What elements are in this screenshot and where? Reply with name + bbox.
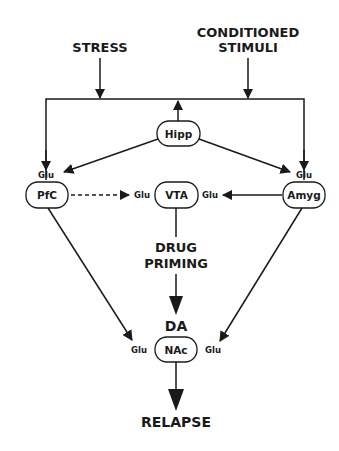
priming-label: PRIMING bbox=[144, 256, 208, 271]
vta-right-glu-label: Glu bbox=[202, 190, 218, 200]
pfc-label: PfC bbox=[37, 189, 57, 201]
hipp-to-amyg-arrow bbox=[199, 139, 290, 172]
vta-left-glu-label: Glu bbox=[134, 190, 150, 200]
priming-arrowhead-icon bbox=[169, 296, 183, 315]
stimuli-label: STIMULI bbox=[218, 40, 278, 55]
drug-label: DRUG bbox=[155, 240, 197, 255]
nac-left-glu-label: Glu bbox=[131, 345, 147, 355]
nac-right-glu-label: Glu bbox=[205, 345, 221, 355]
vta-label: VTA bbox=[165, 189, 188, 201]
relapse-arrowhead-icon bbox=[168, 389, 184, 411]
nac-label: NAc bbox=[164, 344, 187, 356]
hipp-to-pfc-arrow bbox=[64, 139, 158, 172]
amyg-label: Amyg bbox=[287, 189, 320, 201]
hipp-label: Hipp bbox=[165, 128, 193, 140]
conditioned-label: CONDITIONED bbox=[197, 25, 300, 40]
amyg-glu-label: Glu bbox=[296, 170, 312, 180]
amyg-to-nac-arrow bbox=[220, 208, 302, 341]
da-label: DA bbox=[165, 318, 188, 334]
stress-label: STRESS bbox=[72, 40, 127, 55]
relapse-circuit-diagram: STRESS CONDITIONED STIMULI Hipp Glu Glu … bbox=[0, 0, 339, 451]
pfc-glu-label: Glu bbox=[38, 170, 54, 180]
relapse-label: RELAPSE bbox=[141, 414, 211, 430]
pfc-to-nac-arrow bbox=[48, 208, 132, 340]
